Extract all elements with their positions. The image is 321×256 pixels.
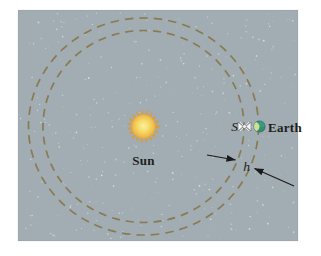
gap-label: h [243, 159, 250, 174]
satellite-label: S [231, 119, 238, 134]
sun-label: Sun [132, 153, 155, 168]
earth-label: Earth [268, 120, 302, 135]
diagram-canvas: Sun S Earth h [0, 0, 321, 256]
figure-satellite-orbit-diagram: Sun S Earth h [0, 0, 321, 256]
